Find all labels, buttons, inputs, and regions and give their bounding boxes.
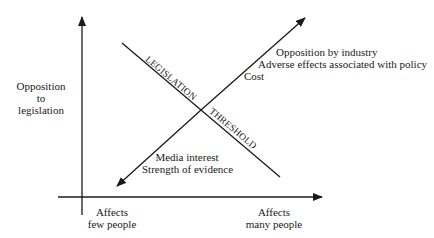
x-axis-left-label-line: Affects [82, 206, 142, 218]
y-axis-label-line: to [14, 92, 68, 104]
y-axis-label-line: Opposition [14, 80, 68, 92]
y-axis-label-line: legislation [14, 104, 68, 116]
x-axis-right-label-line: many people [240, 218, 308, 230]
x-axis-left-label: Affects few people [82, 206, 142, 230]
factor-adverse-effects: Adverse effects associated with policy [258, 58, 427, 70]
x-axis-right-label-line: Affects [240, 206, 308, 218]
factor-strength-of-evidence: Strength of evidence [142, 163, 232, 175]
x-axis-left-label-line: few people [82, 218, 142, 230]
lower-factors: Media interest Strength of evidence [142, 151, 232, 175]
factor-opposition-by-industry: Opposition by industry [276, 46, 427, 58]
upper-factors: Opposition by industry Adverse effects a… [258, 46, 427, 82]
factor-cost: Cost [244, 70, 427, 82]
factor-media-interest: Media interest [142, 151, 232, 163]
y-axis-label: Opposition to legislation [14, 80, 68, 116]
x-axis-right-label: Affects many people [240, 206, 308, 230]
